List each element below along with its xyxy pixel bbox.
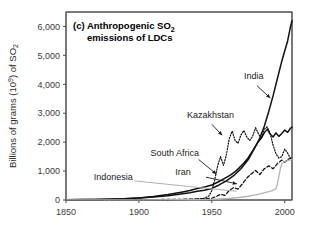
series-label-iran: Iran <box>175 167 191 177</box>
x-tick-label: 1950 <box>202 207 222 217</box>
x-axis: 1850190019502000 <box>56 200 295 217</box>
y-tick-label: 2,000 <box>37 137 60 147</box>
y-tick-label: 4,000 <box>37 80 60 90</box>
series-label-indonesia: Indonesia <box>94 172 133 182</box>
series-label-south-africa: South Africa <box>151 148 200 158</box>
x-tick-label: 2000 <box>275 207 295 217</box>
y-tick-label: 6,000 <box>37 22 60 32</box>
y-tick-label: 1,000 <box>37 166 60 176</box>
panel-title: (c) Anthropogenic SO2 emissions of LDCs <box>73 20 175 43</box>
series-label-india: India <box>244 71 264 81</box>
chart-figure: 01,0002,0003,0004,0005,0006,000 18501900… <box>0 0 310 241</box>
panel-title-line-2: emissions of LDCs <box>87 32 173 43</box>
x-tick-label: 1850 <box>56 207 76 217</box>
series-label-kazakhstan: Kazakhstan <box>187 110 234 120</box>
y-tick-label: 3,000 <box>37 108 60 118</box>
y-axis-title: Billions of grams (109) of SO2 <box>7 44 20 168</box>
x-tick-label: 1900 <box>129 207 149 217</box>
y-tick-label: 0 <box>55 195 60 205</box>
y-tick-label: 5,000 <box>37 51 60 61</box>
so2-emissions-line-chart: 01,0002,0003,0004,0005,0006,000 18501900… <box>0 0 310 241</box>
